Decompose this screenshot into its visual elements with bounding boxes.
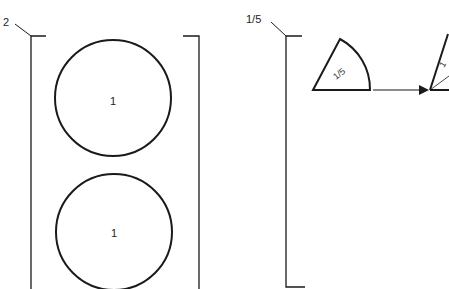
partial-sector-label: 1	[437, 60, 448, 69]
arrow-right-icon	[419, 85, 429, 95]
reference-label-2: 2	[3, 16, 9, 28]
partial-sector: 1	[430, 34, 449, 90]
circle-bottom-label: 1	[111, 227, 117, 239]
diagram-canvas: 2 1 1 1/5 1/5 1	[0, 0, 449, 289]
circle-top-label: 1	[110, 95, 116, 107]
left-group: 2 1 1	[3, 16, 199, 289]
sector-label: 1/5	[331, 66, 347, 82]
leader-line	[15, 24, 31, 36]
right-bracket	[183, 36, 199, 289]
reference-label-1-5: 1/5	[246, 13, 261, 25]
right-group: 1/5 1/5 1	[246, 13, 449, 287]
left-bracket	[286, 36, 305, 287]
leader-line	[271, 22, 286, 36]
sector-one-fifth	[313, 39, 370, 90]
left-bracket	[31, 36, 46, 289]
